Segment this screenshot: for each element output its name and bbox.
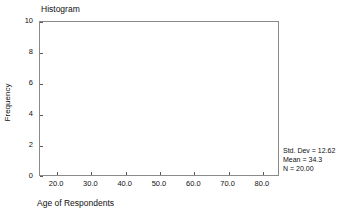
plot-frame bbox=[39, 21, 279, 176]
y-tick-mark bbox=[40, 22, 43, 23]
y-tick-label: 0 bbox=[29, 172, 33, 180]
y-tick-label: 2 bbox=[29, 141, 33, 149]
x-tick-label: 50.0 bbox=[152, 179, 167, 188]
y-tick-label: 10 bbox=[25, 17, 33, 25]
x-tick-label: 60.0 bbox=[186, 179, 201, 188]
y-tick-mark bbox=[40, 53, 43, 54]
x-tick-label: 80.0 bbox=[255, 179, 270, 188]
mean-label: Mean = 34.3 bbox=[283, 155, 353, 164]
chart-title: Histogram bbox=[41, 4, 80, 15]
x-tick-mark bbox=[57, 172, 58, 175]
y-tick-mark bbox=[40, 176, 43, 177]
x-tick-mark bbox=[229, 172, 230, 175]
x-tick-label: 30.0 bbox=[83, 179, 98, 188]
plot-area bbox=[40, 22, 278, 175]
y-tick-label: 6 bbox=[29, 79, 33, 87]
x-tick-label: 70.0 bbox=[220, 179, 235, 188]
std-dev-label: Std. Dev = 12.62 bbox=[283, 146, 353, 155]
y-tick-mark bbox=[40, 84, 43, 85]
y-tick-mark bbox=[40, 146, 43, 147]
x-tick-label: 40.0 bbox=[117, 179, 132, 188]
y-axis-title: Frequency bbox=[3, 68, 12, 138]
y-tick-label: 4 bbox=[29, 110, 33, 118]
x-axis-title: Age of Respondents bbox=[37, 198, 114, 208]
n-label: N = 20.00 bbox=[283, 164, 353, 173]
x-tick-mark bbox=[126, 172, 127, 175]
x-tick-mark bbox=[194, 172, 195, 175]
statistics-annotation: Std. Dev = 12.62 Mean = 34.3 N = 20.00 bbox=[283, 146, 353, 174]
x-tick-label: 20.0 bbox=[49, 179, 64, 188]
histogram-chart: Histogram 0246810 Frequency Age of Respo… bbox=[0, 0, 356, 219]
x-tick-mark bbox=[91, 172, 92, 175]
y-tick-label: 8 bbox=[29, 48, 33, 56]
x-tick-mark bbox=[160, 172, 161, 175]
x-tick-mark bbox=[263, 172, 264, 175]
y-tick-mark bbox=[40, 115, 43, 116]
